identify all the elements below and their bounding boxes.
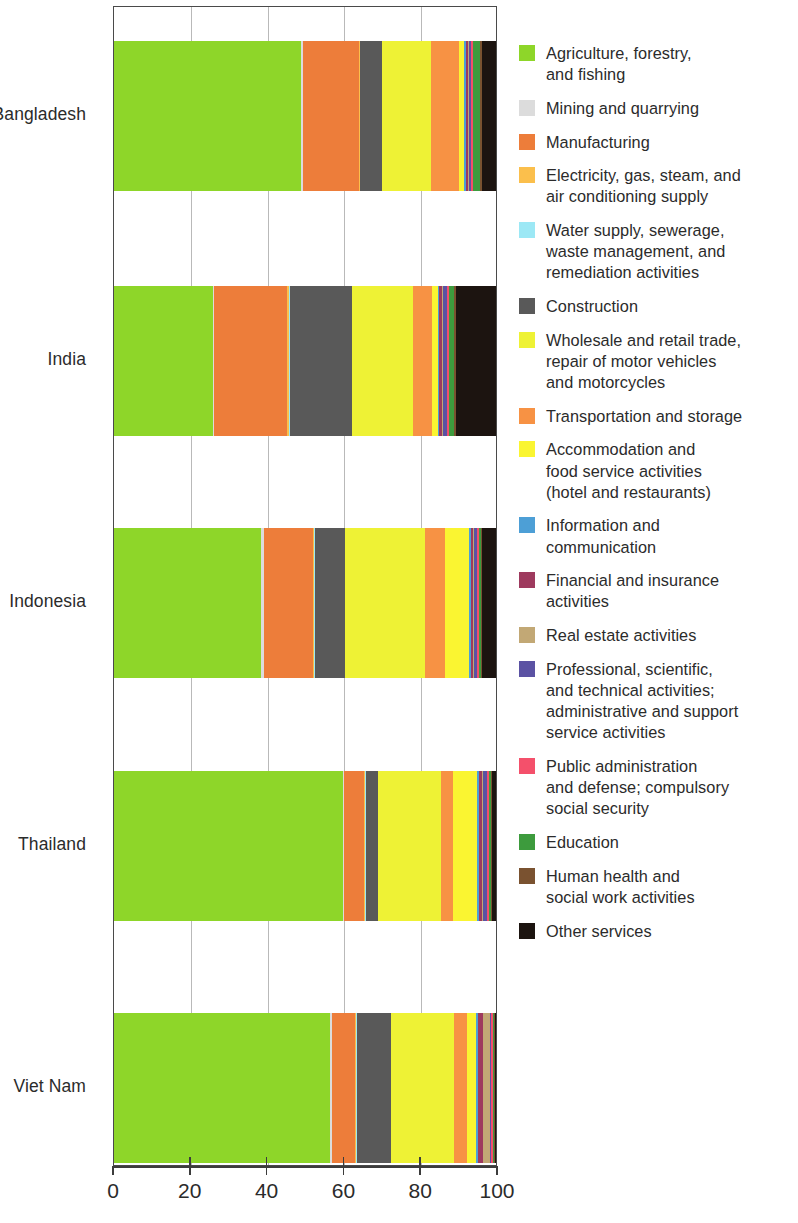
bar-segment — [482, 41, 497, 191]
x-tick-label: 100 — [479, 1179, 514, 1203]
bar-segment — [264, 528, 313, 678]
legend-item[interactable]: Water supply, sewerage,waste management,… — [519, 220, 798, 284]
legend-label: Wholesale and retail trade,repair of mot… — [546, 330, 741, 394]
legend-label: Construction — [546, 296, 638, 317]
legend-item[interactable]: Education — [519, 832, 798, 853]
legend: Agriculture, forestry,and fishingMining … — [519, 43, 798, 954]
bar-segment — [425, 528, 445, 678]
bar-segment — [366, 771, 378, 921]
legend-label: Information andcommunication — [546, 515, 660, 557]
legend-label: Public administrationand defense; compul… — [546, 756, 729, 820]
bar-segment — [332, 1013, 355, 1163]
legend-swatch-information — [519, 517, 535, 533]
legend-label: Water supply, sewerage,waste management,… — [546, 220, 725, 284]
bar-segment — [357, 1013, 390, 1163]
x-tick-label: 0 — [107, 1179, 119, 1203]
legend-swatch-wholesale — [519, 332, 535, 348]
x-tick — [419, 1166, 421, 1175]
legend-item[interactable]: Mining and quarrying — [519, 98, 798, 119]
legend-swatch-realestate — [519, 627, 535, 643]
bar-segment — [454, 1013, 467, 1163]
bar-segment — [495, 1013, 496, 1163]
x-tick-inner — [343, 1157, 345, 1166]
legend-swatch-other — [519, 923, 535, 939]
legend-swatch-education — [519, 834, 535, 850]
legend-item[interactable]: Manufacturing — [519, 132, 798, 153]
legend-swatch-health — [519, 868, 535, 884]
bar-segment — [473, 41, 481, 191]
bar-segment — [382, 41, 431, 191]
legend-label: Manufacturing — [546, 132, 650, 153]
legend-swatch-mining — [519, 100, 535, 116]
stacked-bar-chart: BangladeshIndiaIndonesiaThailandViet Nam… — [0, 0, 798, 1223]
legend-item[interactable]: Public administrationand defense; compul… — [519, 756, 798, 820]
bar-segment — [214, 286, 287, 436]
x-tick-label: 20 — [178, 1179, 201, 1203]
category-label-thailand: Thailand — [18, 834, 86, 855]
legend-swatch-financial — [519, 572, 535, 588]
legend-label: Electricity, gas, steam, andair conditio… — [546, 165, 741, 207]
legend-item[interactable]: Real estate activities — [519, 625, 798, 646]
legend-label: Education — [546, 832, 619, 853]
legend-item[interactable]: Other services — [519, 921, 798, 942]
bar-segment — [114, 771, 343, 921]
bar-segment — [467, 1013, 477, 1163]
bar-segment — [378, 771, 441, 921]
bar-segment — [114, 1013, 330, 1163]
bar-segment — [453, 771, 478, 921]
x-tick-label: 80 — [409, 1179, 432, 1203]
legend-label: Transportation and storage — [546, 406, 742, 427]
bar-segment — [456, 286, 497, 436]
legend-item[interactable]: Professional, scientific,and technical a… — [519, 659, 798, 744]
bar-segment — [114, 528, 261, 678]
legend-swatch-agriculture — [519, 45, 535, 61]
bar-segment — [492, 771, 496, 921]
bar-segment — [315, 528, 345, 678]
bar-segment — [303, 41, 359, 191]
legend-label: Financial and insuranceactivities — [546, 570, 719, 612]
bar-segment — [445, 528, 469, 678]
category-label-bangladesh: Bangladesh — [0, 104, 86, 125]
legend-item[interactable]: Electricity, gas, steam, andair conditio… — [519, 165, 798, 207]
legend-label: Real estate activities — [546, 625, 696, 646]
legend-label: Accommodation andfood service activities… — [546, 439, 711, 503]
legend-swatch-accommodation — [519, 441, 535, 457]
legend-item[interactable]: Transportation and storage — [519, 406, 798, 427]
legend-label: Human health andsocial work activities — [546, 866, 695, 908]
x-tick — [496, 1166, 498, 1175]
bar-viet-nam — [114, 1013, 496, 1163]
bar-segment — [391, 1013, 454, 1163]
x-tick-inner — [189, 1157, 191, 1166]
plot-area — [113, 6, 497, 1166]
legend-item[interactable]: Accommodation andfood service activities… — [519, 439, 798, 503]
x-tick — [266, 1166, 268, 1175]
bar-segment — [413, 286, 432, 436]
legend-label: Agriculture, forestry,and fishing — [546, 43, 692, 85]
legend-swatch-professional — [519, 661, 535, 677]
bar-thailand — [114, 771, 496, 921]
category-label-viet-nam: Viet Nam — [14, 1076, 86, 1097]
legend-label: Professional, scientific,and technical a… — [546, 659, 738, 744]
bar-segment — [114, 41, 301, 191]
legend-item[interactable]: Financial and insuranceactivities — [519, 570, 798, 612]
legend-item[interactable]: Agriculture, forestry,and fishing — [519, 43, 798, 85]
legend-swatch-manufacturing — [519, 134, 535, 150]
bar-segment — [345, 528, 425, 678]
legend-label: Mining and quarrying — [546, 98, 699, 119]
bar-bangladesh — [114, 41, 496, 191]
legend-item[interactable]: Construction — [519, 296, 798, 317]
x-tick-label: 40 — [255, 1179, 278, 1203]
bar-india — [114, 286, 496, 436]
legend-item[interactable]: Wholesale and retail trade,repair of mot… — [519, 330, 798, 394]
bar-segment — [441, 771, 452, 921]
legend-item[interactable]: Human health andsocial work activities — [519, 866, 798, 908]
bar-segment — [483, 1013, 490, 1163]
bar-segment — [360, 41, 381, 191]
legend-label: Other services — [546, 921, 652, 942]
bar-segment — [114, 286, 213, 436]
x-axis-line — [113, 1166, 497, 1168]
legend-swatch-water — [519, 222, 535, 238]
x-tick — [112, 1166, 114, 1175]
x-tick-label: 60 — [332, 1179, 355, 1203]
legend-item[interactable]: Information andcommunication — [519, 515, 798, 557]
